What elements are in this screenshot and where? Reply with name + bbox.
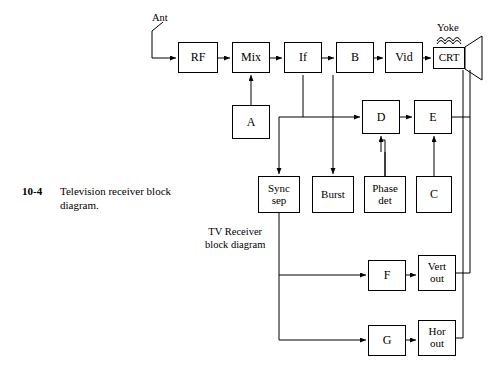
block-f[interactable]: F [368, 260, 406, 291]
block-phase-det[interactable]: Phase det [364, 176, 406, 213]
inner-note: TV Receiver block diagram [205, 226, 265, 251]
block-e[interactable]: E [414, 100, 452, 134]
block-vid[interactable]: Vid [385, 42, 423, 73]
block-a[interactable]: A [232, 105, 270, 139]
block-sync-sep[interactable]: Sync sep [258, 176, 300, 213]
block-rf[interactable]: RF [178, 42, 218, 73]
figure-container: RF Mix If B Vid CRT A D E Sync sep Burst… [0, 0, 502, 375]
block-mix[interactable]: Mix [232, 42, 270, 73]
figure-caption: Television receiver block diagram. [60, 185, 180, 213]
block-burst[interactable]: Burst [312, 176, 354, 213]
antenna-label: Ant [152, 12, 168, 25]
block-c[interactable]: C [416, 176, 452, 213]
block-b[interactable]: B [336, 42, 374, 73]
block-vert-out[interactable]: Vert out [418, 255, 456, 291]
figure-number: 10-4 [22, 185, 42, 197]
block-d[interactable]: D [362, 100, 400, 134]
yoke-label: Yoke [437, 22, 459, 35]
block-crt[interactable]: CRT [433, 47, 465, 69]
block-if[interactable]: If [284, 42, 322, 73]
block-hor-out[interactable]: Hor out [418, 320, 456, 356]
block-g[interactable]: G [368, 325, 406, 356]
